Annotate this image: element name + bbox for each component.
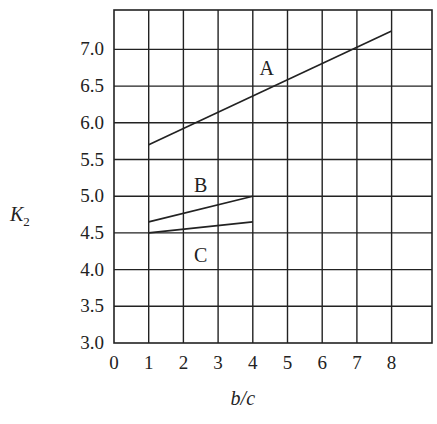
x-tick-label: 0	[109, 352, 119, 373]
x-tick-label: 7	[352, 352, 362, 373]
series-line-c	[149, 222, 253, 233]
x-tick-label: 3	[213, 352, 223, 373]
y-tick-label: 7.0	[80, 38, 104, 59]
curve-label-b: B	[194, 174, 207, 196]
series-line-b	[149, 196, 253, 222]
x-tick-label: 6	[317, 352, 327, 373]
x-tick-label: 5	[283, 352, 293, 373]
y-tick-label: 4.0	[80, 259, 104, 280]
x-tick-label: 4	[248, 352, 258, 373]
y-tick-label: 5.0	[80, 185, 104, 206]
x-tick-label: 1	[144, 352, 154, 373]
chart: 3.03.54.04.55.05.56.06.57.0012345678K2b/…	[0, 0, 437, 424]
y-tick-label: 3.5	[80, 295, 104, 316]
x-tick-label: 8	[387, 352, 397, 373]
x-tick-label: 2	[179, 352, 189, 373]
y-tick-label: 5.5	[80, 149, 104, 170]
y-tick-label: 4.5	[80, 222, 104, 243]
curve-label-c: C	[194, 244, 207, 266]
y-tick-label: 6.5	[80, 75, 104, 96]
x-axis-label: b/c	[231, 387, 256, 409]
series-line-a	[149, 31, 392, 145]
y-axis-label: K2	[9, 203, 30, 229]
curve-label-a: A	[259, 57, 274, 79]
y-tick-label: 3.0	[80, 332, 104, 353]
y-tick-label: 6.0	[80, 112, 104, 133]
